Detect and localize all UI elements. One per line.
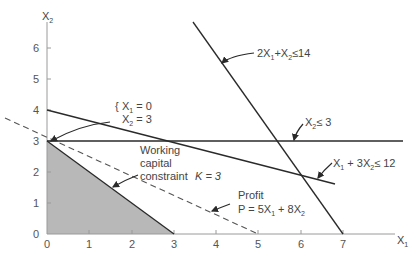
constraint-label-x2-3: X2≤ 3 (305, 116, 331, 130)
constraint-label-2x1-x2-14: 2X1+X2≤14 (257, 47, 310, 61)
arrow-to-corner-point (51, 122, 110, 141)
svg-text:2: 2 (33, 166, 39, 178)
svg-text:5: 5 (33, 73, 39, 85)
constraint-label-x1-3x2-12: X1 + 3X2≤ 12 (333, 157, 396, 171)
svg-text:2: 2 (129, 238, 135, 250)
svg-text:{: { (115, 100, 119, 112)
svg-text:4: 4 (33, 104, 39, 116)
svg-text:0: 0 (33, 228, 39, 240)
arrow-to-x2-line (294, 124, 303, 140)
svg-text:7: 7 (340, 238, 346, 250)
profit-label: Profit P = 5X1 + 8X2 (238, 189, 305, 217)
x-tick-labels: 0 1 2 3 4 5 6 7 (44, 238, 346, 250)
svg-text:5: 5 (255, 238, 261, 250)
svg-text:P = 5X1 + 8X2: P = 5X1 + 8X2 (238, 203, 305, 217)
arrow-to-working-capital (113, 175, 138, 187)
svg-text:0: 0 (44, 238, 50, 250)
svg-text:X2 = 3: X2 = 3 (122, 113, 152, 127)
svg-text:K = 3: K = 3 (195, 170, 222, 182)
x-axis-title: X1 (397, 234, 408, 248)
svg-text:constraint: constraint (140, 170, 188, 182)
arrow-to-2x1-line (222, 53, 254, 63)
y-tick-labels: 0 1 2 3 4 5 6 (33, 42, 39, 240)
svg-text:3: 3 (33, 135, 39, 147)
svg-text:capital: capital (140, 157, 172, 169)
svg-text:3: 3 (171, 238, 177, 250)
arrow-to-profit (212, 204, 230, 211)
svg-text:X1 = 0: X1 = 0 (122, 100, 152, 114)
working-capital-label: Working capital constraint K = 3 (140, 144, 222, 182)
svg-text:Profit: Profit (238, 189, 264, 201)
svg-text:4: 4 (213, 238, 219, 250)
y-axis-title: X2 (42, 10, 53, 24)
lp-graph: 0 1 2 3 4 5 6 0 1 2 3 4 5 6 7 X2 X1 { X1… (0, 0, 413, 260)
svg-text:6: 6 (33, 42, 39, 54)
svg-text:6: 6 (298, 238, 304, 250)
svg-text:1: 1 (33, 197, 39, 209)
corner-point-label: { X1 = 0 X2 = 3 (115, 100, 152, 127)
arrow-to-x1-3x2-line (318, 163, 332, 178)
svg-text:1: 1 (86, 238, 92, 250)
svg-text:Working: Working (140, 144, 180, 156)
